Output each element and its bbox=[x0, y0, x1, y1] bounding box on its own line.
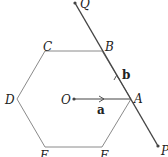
label-vector-b: b bbox=[122, 68, 130, 82]
label-p: P bbox=[160, 144, 168, 157]
point-q bbox=[73, 1, 76, 4]
hexagon-diagram: Q P A B C D E F O a b bbox=[0, 0, 168, 157]
label-e-vertex: E bbox=[39, 149, 49, 157]
label-vector-a: a bbox=[97, 103, 105, 117]
label-q: Q bbox=[80, 0, 90, 11]
label-a-vertex: A bbox=[133, 92, 143, 106]
line-pq bbox=[75, 3, 158, 146]
point-o bbox=[72, 97, 75, 100]
label-o-center: O bbox=[61, 93, 71, 107]
label-b-vertex: B bbox=[104, 40, 114, 54]
label-f-vertex: F bbox=[99, 149, 109, 157]
label-d-vertex: D bbox=[4, 93, 15, 107]
label-c-vertex: C bbox=[43, 40, 52, 54]
point-p bbox=[156, 144, 159, 147]
